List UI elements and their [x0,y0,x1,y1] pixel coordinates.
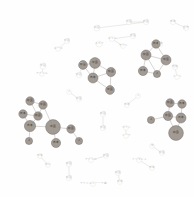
graph-node[interactable] [76,72,82,78]
graph-node[interactable] [90,58,101,69]
graph-node[interactable] [124,134,129,139]
graph-node[interactable] [46,120,61,135]
graph-node[interactable] [96,41,102,47]
graph-node[interactable] [51,138,60,147]
graph-node[interactable] [106,86,115,95]
graph-node[interactable] [66,175,71,180]
graph-node[interactable] [109,36,114,41]
graph-node[interactable] [178,100,186,108]
graph-node[interactable] [176,113,186,123]
graph-node[interactable] [91,182,96,187]
graph-node[interactable] [25,137,32,144]
graph-node[interactable] [141,50,151,60]
graph-node[interactable] [94,25,100,31]
graph-node[interactable] [124,126,129,131]
graph-node[interactable] [163,111,172,120]
graph-node[interactable] [26,97,34,105]
graph-node[interactable] [34,112,42,120]
node-layer [19,19,189,186]
graph-node[interactable] [106,67,115,76]
graph-node[interactable] [150,166,155,171]
graph-node[interactable] [77,97,82,102]
graph-node[interactable] [88,157,93,162]
graph-node[interactable] [116,171,121,176]
graph-node[interactable] [152,40,160,48]
graph-svg [0,0,194,197]
graph-node[interactable] [40,63,46,69]
graph-node[interactable] [66,161,71,166]
graph-node[interactable] [166,99,174,107]
graph-node[interactable] [121,44,126,49]
graph-node[interactable] [64,38,69,43]
graph-node[interactable] [104,154,109,159]
graph-node[interactable] [136,157,141,162]
graph-node[interactable] [150,144,155,149]
graph-node[interactable] [147,116,154,123]
graph-node[interactable] [88,73,98,83]
graph-node[interactable] [67,125,75,133]
graph-node[interactable] [175,75,180,80]
network-graph-canvas: 中国韓国日本台湾韓国米国ネットスカイ中国ネースサイト日本米国アイドル日本韓国地域… [0,0,194,197]
graph-node[interactable] [40,72,45,77]
graph-node[interactable] [170,19,175,24]
graph-node[interactable] [169,126,184,141]
graph-node[interactable] [172,64,177,69]
graph-node[interactable] [75,137,82,144]
graph-node[interactable] [153,70,160,77]
graph-node[interactable] [38,154,43,159]
graph-node[interactable] [24,120,35,131]
graph-node[interactable] [138,66,147,75]
graph-node[interactable] [19,110,27,118]
graph-node[interactable] [136,94,141,99]
graph-node[interactable] [143,19,148,24]
graph-node[interactable] [126,19,131,24]
graph-node[interactable] [118,180,123,185]
graph-node[interactable] [100,125,105,130]
graph-node[interactable] [183,25,188,30]
graph-node[interactable] [130,33,135,38]
graph-node[interactable] [67,90,72,95]
graph-node[interactable] [39,101,47,109]
graph-node[interactable] [125,103,130,108]
graph-node[interactable] [79,61,88,70]
graph-edge [112,36,133,39]
graph-node[interactable] [56,47,61,52]
graph-edge [97,22,146,28]
graph-node[interactable] [100,111,105,116]
graph-node[interactable] [161,55,171,65]
graph-node[interactable] [46,163,51,168]
graph-node[interactable] [160,151,165,156]
